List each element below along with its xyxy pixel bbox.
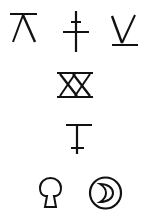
lambda-with-top-bar-icon: Lambda-like shape with a horizontal bar … bbox=[9, 12, 39, 44]
v-with-underline-icon: V shape with a horizontal underline bbox=[109, 14, 139, 48]
glyph-label: Keyhole / mushroom outline shape bbox=[39, 209, 40, 210]
double-cross-icon: Vertical stroke crossed by a short upper… bbox=[61, 10, 91, 54]
glyph-label: Vertical stroke with a long top bar and … bbox=[65, 155, 66, 156]
glyph-label: V shape with a horizontal underline bbox=[109, 48, 110, 49]
circled-crescent-icon: Crescent moon inside a circle bbox=[88, 175, 124, 211]
double-x-between-bars-icon: Two X shapes between top and bottom hori… bbox=[56, 71, 94, 99]
glyph-label: Crescent moon inside a circle bbox=[88, 211, 89, 212]
glyph-label: Vertical stroke crossed by a short upper… bbox=[61, 54, 62, 55]
glyph-label: Lambda-like shape with a horizontal bar … bbox=[9, 44, 10, 45]
keyhole-icon: Keyhole / mushroom outline shape bbox=[39, 177, 63, 209]
glyph-label: Two X shapes between top and bottom hori… bbox=[56, 99, 57, 100]
i-beam-cross-icon: Vertical stroke with a long top bar and … bbox=[65, 123, 93, 155]
